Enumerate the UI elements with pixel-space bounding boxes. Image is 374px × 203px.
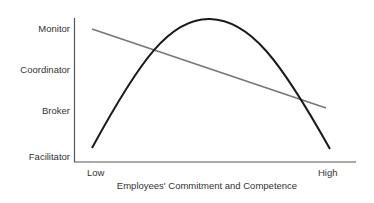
inverted-u-curve	[92, 19, 330, 149]
y-label-broker: Broker	[42, 105, 70, 116]
decreasing-line	[92, 29, 326, 108]
x-axis-title: Employees' Commitment and Competence	[0, 180, 374, 191]
chart-container: Monitor Coordinator Broker Facilitator L…	[0, 0, 374, 203]
y-label-facilitator: Facilitator	[29, 151, 70, 162]
y-label-monitor: Monitor	[38, 23, 70, 34]
y-label-coordinator: Coordinator	[20, 64, 70, 75]
x-label-low: Low	[87, 167, 104, 178]
x-label-high: High	[318, 167, 338, 178]
